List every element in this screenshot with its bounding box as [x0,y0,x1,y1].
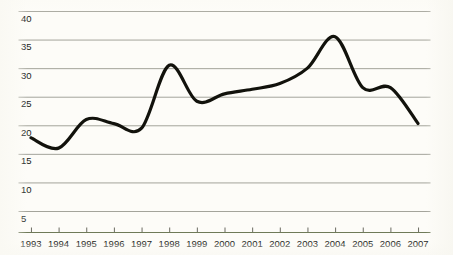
x-axis-tick-label: 1998 [159,239,180,249]
x-axis-tick-label: 2001 [242,239,263,249]
y-axis-tick-label: 30 [21,71,32,81]
y-axis-tick-label: 35 [21,42,32,52]
x-axis-tick-label: 2006 [380,239,401,249]
y-axis-tick-label: 10 [21,185,32,195]
chart-plot-area [0,0,453,255]
data-series-line [31,36,418,148]
x-axis-tick-label: 1996 [103,239,124,249]
line-chart: 510152025303540 199319941995199619971998… [0,0,453,255]
x-axis-tick-label: 2000 [214,239,235,249]
x-axis-tick-label: 1999 [186,239,207,249]
y-axis-tick-label: 25 [21,99,32,109]
gridlines [19,12,431,212]
x-axis-tick-label: 1994 [48,239,69,249]
x-axis-tick-label: 2003 [297,239,318,249]
x-axis-ticks [31,228,418,233]
y-axis-tick-label: 5 [21,214,26,224]
x-axis-tick-label: 1995 [76,239,97,249]
x-axis-tick-label: 2002 [269,239,290,249]
x-axis-tick-label: 2005 [352,239,373,249]
y-axis-tick-label: 20 [21,128,32,138]
y-axis-tick-label: 15 [21,156,32,166]
x-axis-tick-label: 1993 [20,239,41,249]
x-axis-tick-label: 2004 [325,239,346,249]
y-axis-tick-label: 40 [21,14,32,24]
x-axis-tick-label: 2007 [407,239,428,249]
x-axis-tick-label: 1997 [131,239,152,249]
